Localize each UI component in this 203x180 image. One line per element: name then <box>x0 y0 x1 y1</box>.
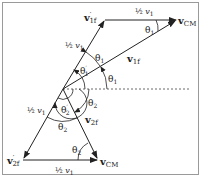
label-half-v1-top: ½ v1 <box>135 7 154 17</box>
arc-theta1-right <box>101 67 107 89</box>
label-theta2-right: θ2 <box>88 98 97 109</box>
vector-v1f <box>63 21 175 89</box>
label-theta1-right: θ1 <box>108 74 117 85</box>
label-theta2-bottom-corner: θ2 <box>72 145 81 156</box>
label-v2f-prime: v′2f <box>6 154 21 168</box>
arc-theta2-prime <box>55 89 87 119</box>
label-vcm-top: vCM <box>177 15 196 28</box>
label-theta1-prime: θ′1 <box>80 64 89 77</box>
label-theta1-top-corner: θ1 <box>145 25 154 36</box>
arc-theta1-top-corner <box>156 20 158 31</box>
label-v1f: v1f <box>126 53 141 66</box>
label-v1f-prime: v′1f <box>83 11 98 25</box>
velocity-diagram: v′1f ½ v1 vCM θ1 ½ v1 θ1 v1f θ′1 θ1 θ2 θ… <box>0 0 203 180</box>
label-theta1-inner: θ1 <box>95 53 104 64</box>
label-vcm-bottom: vCM <box>99 156 118 169</box>
label-half-v1-left-upper: ½ v1 <box>65 41 84 51</box>
label-half-v1-left-lower: ½ v1 <box>27 106 46 116</box>
label-half-v1-bottom: ½ v1 <box>55 166 74 176</box>
label-theta2-inner: θ2 <box>58 122 67 133</box>
label-v2f: v2f <box>84 114 99 127</box>
label-theta2-prime: θ′2 <box>61 103 70 116</box>
